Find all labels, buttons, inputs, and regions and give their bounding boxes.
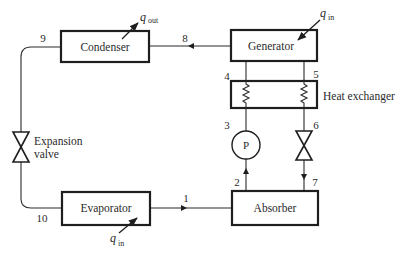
pipe-10	[21, 162, 62, 208]
heat-exchanger: Heat exchanger	[231, 81, 395, 108]
expansion-valve: Expansion valve	[13, 132, 83, 162]
heat-exchanger-label: Heat exchanger	[323, 90, 395, 103]
state-point-4: 4	[224, 70, 230, 82]
absorber: Absorber	[232, 191, 318, 225]
state-point-8: 8	[182, 32, 188, 44]
pump: P	[232, 131, 260, 159]
condenser-label: Condenser	[80, 41, 129, 53]
throttle-valve-icon	[296, 131, 312, 160]
flow-arrow-icon	[301, 174, 307, 180]
pipe-1	[150, 205, 232, 211]
expansion-valve-label-line1: Expansion	[34, 135, 83, 148]
expansion-valve-label-line2: valve	[34, 148, 59, 160]
state-point-2: 2	[234, 176, 240, 188]
flow-arrow-icon	[181, 205, 187, 211]
condenser: Condenser	[61, 31, 149, 62]
state-point-9: 9	[40, 32, 46, 44]
state-point-7: 7	[312, 176, 318, 188]
evaporator: Evaporator	[62, 192, 150, 225]
pipe-2	[243, 159, 249, 191]
pipe-9	[21, 47, 61, 132]
pump-label: P	[243, 139, 249, 151]
q-in-gen-symbol: q	[320, 6, 326, 20]
q-in-evap-symbol: q	[110, 231, 116, 245]
pipe-7	[301, 160, 307, 191]
state-point-10: 10	[37, 212, 49, 224]
pipe-8	[149, 43, 231, 49]
q-in-gen-subscript: in	[328, 13, 334, 22]
state-point-5: 5	[313, 68, 319, 80]
state-point-1: 1	[183, 192, 189, 204]
valve-icon	[13, 132, 29, 162]
flow-arrow-icon	[243, 168, 249, 174]
evaporator-label: Evaporator	[80, 202, 131, 215]
q-in-evap-subscript: in	[118, 239, 124, 248]
q-out-symbol: q	[140, 10, 146, 24]
absorber-label: Absorber	[254, 202, 297, 214]
q-out-subscript: out	[148, 16, 159, 25]
flow-arrow-icon	[188, 43, 194, 49]
absorption-cycle-diagram: Condenser Generator Heat exchanger P Exp…	[0, 0, 400, 254]
generator-label: Generator	[248, 40, 294, 52]
state-point-6: 6	[313, 119, 319, 131]
state-point-3: 3	[224, 119, 230, 131]
